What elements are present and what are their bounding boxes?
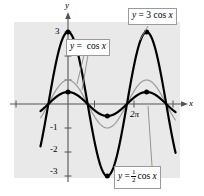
x-axis-arrowhead [181, 101, 188, 107]
fraction-numerator: 1 [131, 169, 137, 176]
callout-halfcos-var: x [153, 171, 157, 181]
y-axis-arrowhead [65, 12, 71, 19]
curve-point-marker [144, 90, 149, 95]
curve-point-marker [66, 90, 71, 95]
callout-halfcos-eq: = [125, 171, 130, 181]
plot-svg [0, 0, 204, 196]
fraction-denominator: 2 [131, 176, 137, 184]
callout-halfcos-fraction: 12 [131, 169, 137, 185]
callout-three-cos-x: y = 3 cos x [128, 8, 177, 25]
y-tick-label-minus-2: -2 [50, 145, 58, 154]
callout-half-cos-x: y =12cos x [114, 166, 161, 189]
callout-cos-x: y = cos x [66, 39, 110, 56]
callout-cos-var: x [102, 41, 106, 51]
y-tick-label-3: 3 [55, 27, 60, 36]
curve-point-marker [105, 174, 110, 179]
y-tick-label-minus-3: -3 [50, 167, 58, 176]
y-tick-label-minus-1: -1 [50, 123, 58, 132]
x-tick-label-2pi: 2π [130, 110, 139, 119]
callout-3cos-eq: = [139, 10, 144, 20]
callout-halfcos-fn: cos [137, 171, 150, 181]
curve-point-marker [66, 30, 71, 35]
callout-3cos-var: x [169, 10, 173, 20]
cosine-graphs-figure: y x 3 -1 -2 -3 2π y = 3 cos x y = cos x … [0, 0, 204, 196]
y-axis-label: y [65, 1, 69, 10]
callout-3cos-fn: cos [153, 10, 166, 20]
x-axis-label: x [189, 99, 193, 108]
callout-cos-fn: cos [87, 41, 100, 51]
curve-point-marker [105, 114, 110, 119]
